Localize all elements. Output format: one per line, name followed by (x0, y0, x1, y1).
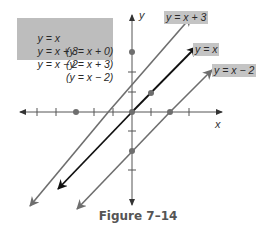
label-y-equals-x-minus-2: y = x − 2 (212, 64, 256, 77)
figure-caption: Figure 7–14 (0, 209, 274, 223)
legend-row: y = x − 2 (y = x − 2) (20, 45, 78, 97)
legend-equation-alt: (y = x − 2) (66, 71, 113, 84)
equation-legend: y = x (y = x + 0) y = x + 3 (y = x + 3) … (17, 18, 113, 60)
label-y-equals-x: y = x (193, 43, 219, 56)
x-axis-label: x (215, 118, 221, 130)
legend-equation: y = x − 2 (38, 58, 78, 70)
y-axis-label: y (139, 9, 145, 21)
line-y-equals-x-minus-2 (77, 70, 212, 209)
x-axis (20, 108, 222, 116)
figure-7-14: y x y = x (y = x + 0) y = x + 3 (y = x +… (0, 0, 274, 232)
label-y-equals-x-plus-3: y = x + 3 (164, 11, 208, 24)
